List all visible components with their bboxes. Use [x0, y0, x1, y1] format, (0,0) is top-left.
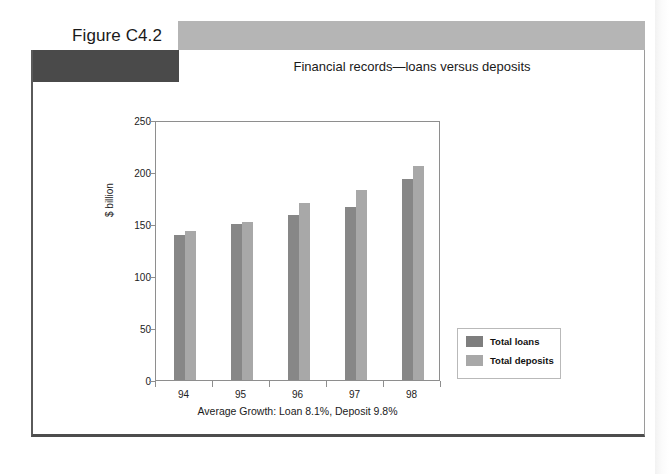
x-tick-mark — [269, 381, 270, 387]
bar-95-deposits — [242, 222, 253, 380]
x-tick-mark — [383, 381, 384, 387]
legend-label-deposits: Total deposits — [490, 355, 554, 366]
x-tick-mark — [440, 381, 441, 387]
chart-caption: Average Growth: Loan 8.1%, Deposit 9.8% — [155, 405, 440, 417]
x-tick-label: 94 — [178, 389, 189, 400]
x-tick-mark — [212, 381, 213, 387]
x-tick-label: 95 — [235, 389, 246, 400]
x-tick-label: 97 — [349, 389, 360, 400]
x-tick-label: 96 — [292, 389, 303, 400]
x-axis-tick-labels: 9495969798 — [155, 389, 440, 405]
chart-plot: 050100150200250 $ billion 9495969798 Ave… — [0, 0, 669, 474]
y-tick-mark — [149, 225, 155, 226]
y-tick-label: 0 — [117, 376, 151, 387]
bar-96-loans — [288, 215, 299, 380]
bar-95-loans — [231, 224, 242, 380]
y-tick-label: 150 — [117, 220, 151, 231]
y-tick-mark — [149, 121, 155, 122]
x-tick-mark — [326, 381, 327, 387]
y-tick-mark — [149, 329, 155, 330]
legend-label-loans: Total loans — [490, 336, 539, 347]
bar-94-loans — [174, 235, 185, 380]
bar-96-deposits — [299, 203, 310, 380]
x-axis-ticks — [155, 381, 440, 388]
x-tick-mark — [155, 381, 156, 387]
bar-94-deposits — [185, 231, 196, 380]
chart-legend: Total loans Total deposits — [457, 328, 561, 379]
y-axis-title: $ billion — [104, 183, 115, 217]
y-tick-label: 50 — [117, 324, 151, 335]
legend-item-loans: Total loans — [466, 336, 560, 347]
y-tick-label: 100 — [117, 272, 151, 283]
y-tick-label: 250 — [117, 116, 151, 127]
bar-97-deposits — [356, 190, 367, 380]
legend-item-deposits: Total deposits — [466, 355, 560, 366]
x-tick-label: 98 — [406, 389, 417, 400]
bar-97-loans — [345, 207, 356, 380]
y-tick-mark — [149, 173, 155, 174]
y-tick-label: 200 — [117, 168, 151, 179]
legend-swatch-loans — [466, 336, 483, 347]
bar-98-loans — [402, 179, 413, 380]
legend-swatch-deposits — [466, 355, 483, 366]
y-axis-tick-labels: 050100150200250 — [113, 121, 151, 381]
bars-layer — [156, 122, 439, 380]
y-tick-mark — [149, 277, 155, 278]
bar-98-deposits — [413, 166, 424, 380]
